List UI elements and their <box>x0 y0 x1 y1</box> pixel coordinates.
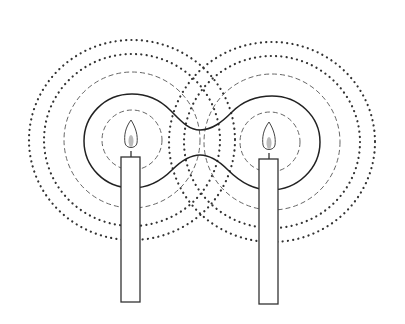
candle-body-left <box>121 157 140 302</box>
candle-body-right <box>259 159 278 304</box>
candle-right <box>259 122 278 304</box>
diagram-canvas <box>0 0 405 324</box>
candle-left <box>121 120 140 302</box>
solid-merged-outline <box>84 94 320 190</box>
dashed-rings-outer <box>64 72 340 210</box>
candle-field-diagram <box>0 0 405 324</box>
